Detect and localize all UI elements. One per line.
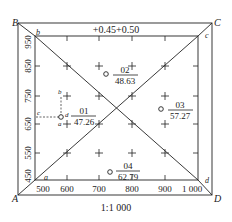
corner-c: c: [205, 31, 209, 40]
point-04-elevation: 62.79: [118, 172, 139, 182]
x-tick-700: 700: [92, 184, 106, 194]
point-03-marker: [159, 107, 164, 112]
x-tick-600: 600: [60, 184, 74, 194]
point-01-label-a: a: [58, 120, 62, 128]
point-03-id: 03: [176, 100, 186, 110]
point-02-elevation: 48.63: [115, 76, 136, 86]
point-01-id: 01: [80, 106, 89, 116]
point-01-label-b: b: [58, 88, 62, 96]
x-tick-800: 800: [125, 184, 139, 194]
corner-D: D: [213, 193, 222, 204]
point-02-id: 02: [121, 65, 130, 75]
corner-b: b: [36, 28, 40, 37]
y-tick-950: 950: [23, 35, 33, 49]
y-tick-550: 550: [23, 146, 33, 160]
point-02-marker: [104, 72, 109, 77]
point-04-marker: [108, 170, 113, 175]
y-tick-450: 450: [23, 169, 33, 183]
point-01-marker: [59, 115, 64, 120]
point-03-elevation: 57.27: [170, 111, 191, 121]
point-01-label-c: c: [37, 109, 41, 117]
corner-a: a: [44, 173, 48, 182]
grid-map-diagram: +0.45+0.50 1:1 000 B C A D b c a d 500 6…: [0, 0, 232, 222]
x-tick-500: 500: [36, 184, 50, 194]
y-tick-850: 850: [23, 59, 33, 73]
corner-d: d: [205, 176, 210, 185]
x-tick-900: 900: [158, 184, 172, 194]
corner-C: C: [214, 17, 221, 28]
corner-B: B: [12, 17, 18, 28]
point-04-id: 04: [124, 161, 134, 171]
top-elevation-label: +0.45+0.50: [93, 24, 139, 35]
corner-A: A: [11, 193, 19, 204]
point-01-label-d: d: [65, 111, 69, 119]
y-tick-750: 750: [23, 89, 33, 103]
point-01-elevation: 47.26: [74, 117, 95, 127]
scale-label: 1:1 000: [101, 202, 131, 213]
y-tick-650: 650: [23, 117, 33, 131]
x-tick-1000: 1 000: [182, 184, 203, 194]
